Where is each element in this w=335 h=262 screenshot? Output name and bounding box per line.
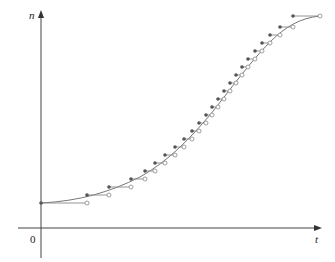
open-dot-icon <box>182 145 186 149</box>
filled-dot-icon <box>240 65 244 69</box>
open-dot-icon <box>210 113 214 117</box>
y-axis-label: n <box>29 9 35 21</box>
open-dot-icon <box>246 65 250 69</box>
axes: n t 0 <box>18 9 322 258</box>
step-function <box>39 14 322 205</box>
filled-dot-icon <box>234 73 238 77</box>
filled-dot-icon <box>210 105 214 109</box>
open-dot-icon <box>173 153 177 157</box>
logistic-curve <box>41 16 320 203</box>
open-dot-icon <box>107 193 111 197</box>
open-dot-icon <box>163 161 167 165</box>
filled-dot-icon <box>204 113 208 117</box>
filled-dot-icon <box>129 177 133 181</box>
filled-dot-icon <box>216 97 220 101</box>
open-dot-icon <box>85 201 89 205</box>
y-axis-arrow-icon <box>38 10 44 18</box>
open-dot-icon <box>222 97 226 101</box>
open-dot-icon <box>278 33 282 37</box>
filled-dot-icon <box>163 153 167 157</box>
open-dot-icon <box>143 177 147 181</box>
filled-dot-icon <box>291 14 295 18</box>
open-dot-icon <box>228 89 232 93</box>
open-dot-icon <box>240 73 244 77</box>
filled-dot-icon <box>182 137 186 141</box>
filled-dot-icon <box>173 145 177 149</box>
open-dot-icon <box>216 105 220 109</box>
open-dot-icon <box>190 137 194 141</box>
open-dot-icon <box>253 57 257 61</box>
filled-dot-icon <box>190 129 194 133</box>
filled-dot-icon <box>153 161 157 165</box>
x-axis-arrow-icon <box>314 225 322 231</box>
open-dot-icon <box>268 41 272 45</box>
filled-dot-icon <box>222 89 226 93</box>
open-dot-icon <box>260 49 264 53</box>
filled-dot-icon <box>246 57 250 61</box>
origin-label: 0 <box>30 233 36 245</box>
open-dot-icon <box>129 185 133 189</box>
filled-dot-icon <box>143 169 147 173</box>
filled-dot-icon <box>260 41 264 45</box>
open-dot-icon <box>234 81 238 85</box>
filled-dot-icon <box>107 185 111 189</box>
filled-dot-icon <box>278 25 282 29</box>
chart: n t 0 <box>0 0 335 262</box>
filled-dot-icon <box>253 49 257 53</box>
filled-dot-icon <box>197 121 201 125</box>
filled-dot-icon <box>85 193 89 197</box>
filled-dot-icon <box>228 81 232 85</box>
open-dot-icon <box>153 169 157 173</box>
x-axis-label: t <box>315 233 319 245</box>
open-dot-icon <box>204 121 208 125</box>
open-dot-icon <box>318 14 322 18</box>
open-dot-icon <box>197 129 201 133</box>
open-dot-icon <box>291 25 295 29</box>
filled-dot-icon <box>268 33 272 37</box>
filled-dot-icon <box>39 201 43 205</box>
